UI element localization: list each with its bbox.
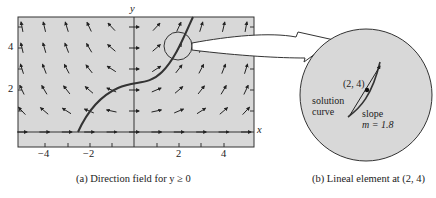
point-2-4 — [365, 88, 369, 92]
direction-field-plot — [18, 17, 254, 147]
x-tick-label-4: 4 — [221, 148, 226, 159]
caption-b: (b) Lineal element at (2, 4) — [312, 173, 425, 184]
slope-label-line1: slope — [362, 108, 383, 119]
y-tick-label-4: 4 — [8, 41, 13, 52]
x-tick-label-neg2: −2 — [83, 148, 94, 159]
point-label: (2, 4) — [343, 78, 365, 89]
curve-label-line2: curve — [312, 106, 334, 117]
x-axis-label: x — [257, 124, 262, 135]
slope-label-line2: m = 1.8 — [362, 119, 393, 130]
y-axis-label: y — [130, 3, 135, 14]
caption-a: (a) Direction field for y ≥ 0 — [76, 173, 191, 184]
figure-canvas — [0, 0, 436, 198]
x-tick-label-2: 2 — [176, 148, 181, 159]
y-tick-label-2: 2 — [8, 83, 13, 94]
x-tick-label-neg4: −4 — [38, 148, 49, 159]
curve-label-line1: solution — [312, 95, 344, 106]
